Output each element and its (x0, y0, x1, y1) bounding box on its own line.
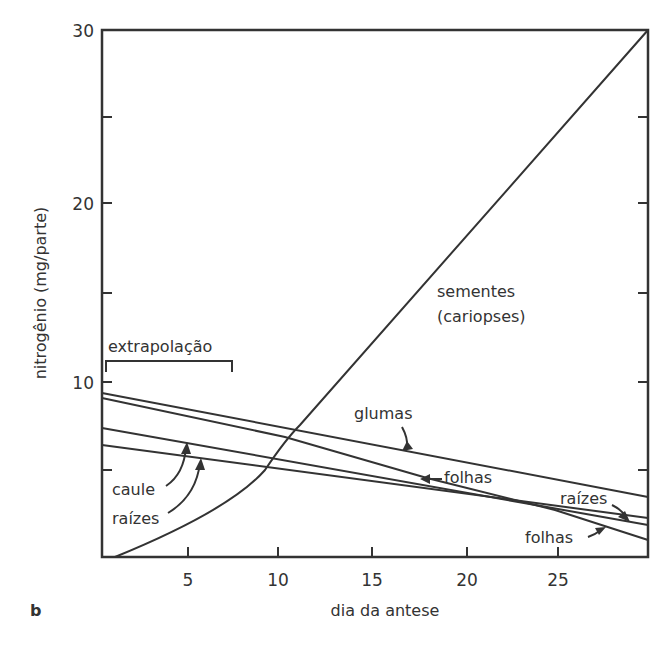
label-folhas-right: folhas (525, 528, 573, 547)
label-raizes-right: raízes (560, 489, 607, 508)
x-tick-10: 10 (267, 570, 289, 590)
y-tick-20: 20 (72, 194, 94, 214)
extrapolation-label: extrapolação (108, 337, 212, 356)
arrow-raizes-left (168, 463, 200, 513)
extrapolation-bracket (106, 361, 232, 372)
y-tick-30: 30 (72, 21, 94, 41)
x-tick-25: 25 (547, 570, 569, 590)
label-sementes: sementes (437, 282, 515, 301)
x-tick-5: 5 (183, 570, 194, 590)
series-caule (102, 428, 648, 525)
label-cariopses: (cariopses) (437, 307, 526, 326)
arrows (166, 427, 626, 537)
chart: 30 20 10 5 10 15 20 25 dia da antese nit… (0, 0, 668, 647)
y-tick-10: 10 (72, 373, 94, 393)
plot-frame (102, 30, 648, 557)
x-ticks (188, 547, 558, 557)
x-tick-20: 20 (456, 570, 478, 590)
label-caule: caule (112, 480, 155, 499)
label-folhas-mid: folhas (444, 468, 492, 487)
panel-label: b (30, 601, 41, 620)
y-axis-label: nitrogênio (mg/parte) (31, 207, 50, 380)
x-axis-label: dia da antese (331, 601, 440, 620)
x-tick-15: 15 (361, 570, 383, 590)
label-raizes-left: raízes (112, 509, 159, 528)
label-glumas: glumas (354, 404, 412, 423)
arrowheads (181, 441, 630, 535)
